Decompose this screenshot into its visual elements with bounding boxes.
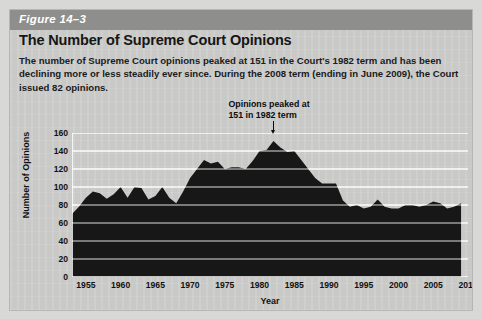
peak-annotation-line2: 151 in 1982 term: [228, 110, 418, 121]
y-axis-tick: 160: [42, 128, 68, 138]
plot-region: [72, 133, 468, 277]
figure-card: Figure 14–3 The Number of Supreme Court …: [10, 10, 472, 310]
peak-annotation-arrowhead-icon: [271, 130, 275, 134]
chart-area: Number of Opinions 160140120100806040200…: [10, 110, 472, 310]
y-axis-tick: 140: [42, 146, 68, 156]
opinions-area-series: [72, 141, 461, 277]
y-axis-tick: 80: [42, 200, 68, 210]
y-axis-tick: 60: [42, 218, 68, 228]
x-axis-tick-labels: 1955196019651970197519801985199019952000…: [72, 280, 468, 294]
y-axis-tick: 100: [42, 182, 68, 192]
y-axis-title: Number of Opinions: [21, 115, 31, 235]
figure-description: The number of Supreme Court opinions pea…: [19, 54, 465, 94]
y-axis-tick-labels: 160140120100806040200: [36, 133, 68, 277]
peak-annotation-line1: Opinions peaked at: [228, 99, 418, 110]
y-axis-tick: 0: [42, 272, 68, 282]
x-axis-tick: 2010: [448, 280, 472, 290]
area-chart-svg: [72, 133, 468, 277]
y-axis-tick: 40: [42, 236, 68, 246]
x-axis-title: Year: [72, 296, 468, 306]
y-axis-tick: 20: [42, 254, 68, 264]
peak-annotation: Opinions peaked at 151 in 1982 term: [228, 99, 418, 121]
figure-title: The Number of Supreme Court Opinions: [19, 32, 292, 48]
y-axis-tick: 120: [42, 164, 68, 174]
figure-label: Figure 14–3: [19, 13, 86, 25]
